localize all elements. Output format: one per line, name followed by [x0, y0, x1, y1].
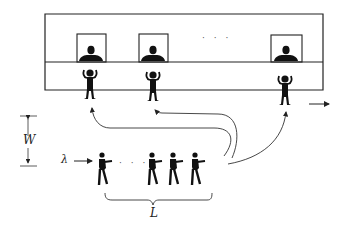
queue-person [170, 152, 183, 185]
arrival-rate-label: λ [61, 153, 68, 166]
queue-person [149, 152, 162, 185]
queue-person [99, 152, 112, 185]
queue-length-brace [105, 193, 212, 205]
queue-length-label: L [150, 206, 158, 220]
queue-person [192, 152, 205, 185]
queue [99, 152, 205, 185]
customer-at-server-1 [83, 69, 96, 99]
server-window-2 [139, 34, 168, 62]
server-window-n [271, 35, 302, 62]
queue-diagram [0, 0, 348, 229]
route-arrow-to-server-2 [155, 110, 237, 158]
route-arrow-to-server-1 [92, 108, 231, 156]
queue-ellipsis: · · · [119, 158, 148, 168]
width-label: W [23, 133, 35, 147]
customer-at-server-2 [146, 71, 159, 101]
servers-ellipsis: · · · [202, 33, 231, 43]
server-window-1 [77, 34, 106, 62]
